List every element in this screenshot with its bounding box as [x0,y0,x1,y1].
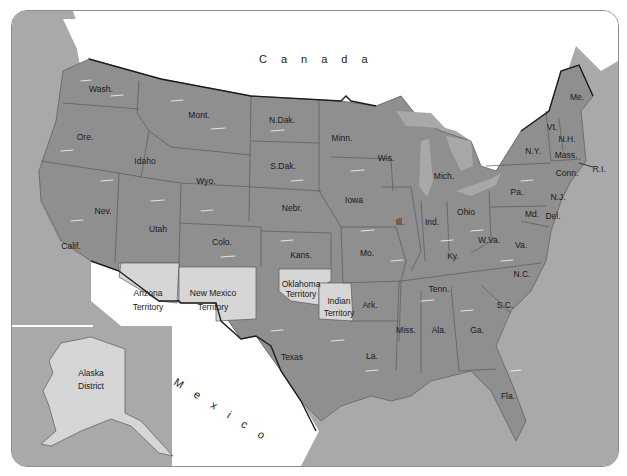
label-nebr: Nebr. [282,203,302,213]
label-ore: Ore. [77,132,94,142]
label-ala: Ala. [432,325,447,335]
label-ohio: Ohio [457,207,475,217]
label-ny: N.Y. [525,146,540,156]
label-del: Del. [545,211,560,221]
label-newmexico-1: New Mexico [190,288,237,298]
label-conn: Conn. [556,168,579,178]
label-me: Me. [570,92,584,102]
label-newmexico-2: Territory [198,302,229,312]
label-wis: Wis. [378,153,395,163]
label-minn: Minn. [332,133,353,143]
label-mass: Mass. [555,150,578,160]
canada-label: Canada [259,53,382,65]
label-nj: N.J. [550,192,565,202]
label-ill: Ill. [396,217,405,227]
label-texas: Texas [281,352,303,362]
label-arizona-1: Arizona [134,288,163,298]
label-ndak: N.Dak. [269,115,295,125]
map-frame: Canada Mexico Wash. Ore. Calif. Idaho Ne… [11,10,619,467]
label-mo: Mo. [360,248,374,258]
label-va: Va. [515,240,527,250]
label-wyo: Wyo. [196,176,215,186]
label-wva: W.Va. [478,235,500,245]
label-fla: Fla. [501,391,515,401]
label-idaho: Idaho [134,156,156,166]
label-la: La. [366,351,378,361]
label-pa: Pa. [511,187,524,197]
us-territorial-map: Canada Mexico Wash. Ore. Calif. Idaho Ne… [12,11,618,466]
label-sdak: S.Dak. [270,161,296,171]
label-nh: N.H. [559,134,576,144]
label-miss: Miss. [396,325,416,335]
label-alaska-1: Alaska [78,368,104,378]
label-kans: Kans. [290,250,312,260]
label-sc: S.C. [497,300,514,310]
label-oklahoma-1: Oklahoma [282,279,321,289]
label-calif: Calif. [61,241,80,251]
label-iowa: Iowa [345,195,363,205]
label-md: Md. [525,209,539,219]
label-tenn: Tenn. [429,284,450,294]
label-oklahoma-2: Territory [286,289,317,299]
label-utah: Utah [149,224,167,234]
label-wash: Wash. [89,84,113,94]
label-vt: Vt. [547,122,557,132]
label-alaska-2: District [78,381,105,391]
label-nev: Nev. [95,206,112,216]
label-mich: Mich. [434,171,454,181]
label-nc: N.C. [514,269,531,279]
label-indian-2: Territory [324,308,355,318]
label-ark: Ark. [362,300,377,310]
label-indian-1: Indian [327,296,350,306]
label-mont: Mont. [188,110,209,120]
label-colo: Colo. [212,237,232,247]
label-ri: R.I. [592,164,605,174]
label-arizona-2: Territory [133,302,164,312]
label-ga: Ga. [470,325,484,335]
label-ky: Ky. [447,251,459,261]
label-ind: Ind. [425,217,439,227]
